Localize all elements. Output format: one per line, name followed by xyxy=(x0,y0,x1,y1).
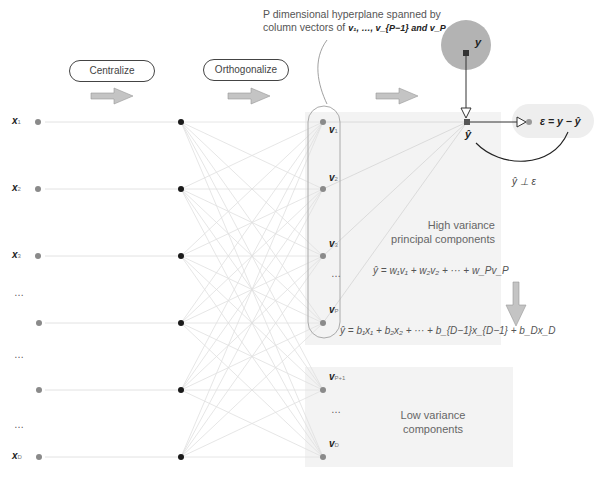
input-label-x1: x1 xyxy=(12,115,21,127)
component-label-vP1: vP+1 xyxy=(329,371,345,383)
x-regression-equation: ŷ = b₁x₁ + b₂x₂ + ··· + b_{D−1}x_{D−1} +… xyxy=(340,325,555,336)
input-ellipsis: … xyxy=(14,287,24,299)
hyperplane-note: P dimensional hyperplane spanned by colu… xyxy=(263,8,446,33)
hyperplane-note-line1: P dimensional hyperplane spanned by xyxy=(263,8,446,21)
orthogonalize-mesh xyxy=(181,122,323,457)
component-label-vP: vP xyxy=(329,304,339,316)
high-variance-label: High variance principal components xyxy=(370,218,495,247)
input-nodes xyxy=(35,119,42,460)
hyperplane-note-line2: column vectors of xyxy=(263,21,348,33)
project-arrow-icon xyxy=(376,88,418,104)
residual-equation: ε = y − ŷ xyxy=(540,115,581,128)
centered-nodes xyxy=(178,119,184,460)
yhat-label: ŷ xyxy=(465,128,471,141)
component-ellipsis: … xyxy=(331,404,341,416)
hyperplane-note-vectors: v₁, …, v_{P−1} and v_P xyxy=(348,23,445,33)
yhat-node xyxy=(464,119,470,125)
orthogonalize-arrow-icon xyxy=(228,88,270,104)
component-label-vD: vD xyxy=(329,438,339,450)
component-label-v1: v1 xyxy=(329,124,338,136)
component-label-v3: v3 xyxy=(329,238,338,250)
low-variance-label: Low variance components xyxy=(390,408,476,437)
input-label-x3: x3 xyxy=(12,249,21,261)
orthogonalize-step: Orthogonalize xyxy=(203,59,289,81)
pc-regression-equation: ŷ = w₁v₁ + w₂v₂ + ··· + w_Pv_P xyxy=(373,265,509,276)
down-arrow-icon xyxy=(506,282,526,326)
centralize-arrow-icon xyxy=(91,88,133,104)
input-label-xD: xD xyxy=(12,450,22,462)
note-pointer xyxy=(318,40,327,104)
component-ellipsis: … xyxy=(331,268,341,280)
orthogonality-label: ŷ ⊥ ε xyxy=(512,176,536,188)
component-label-v2: v2 xyxy=(329,172,338,184)
input-ellipsis: … xyxy=(14,349,24,361)
y-label: y xyxy=(475,36,481,49)
input-ellipsis: … xyxy=(14,419,24,431)
centralize-step: Centralize xyxy=(69,60,155,82)
input-label-x2: x2 xyxy=(12,182,21,194)
y-node xyxy=(463,50,469,56)
input-links xyxy=(45,122,181,457)
